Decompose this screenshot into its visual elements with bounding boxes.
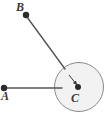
diagram-canvas — [0, 0, 106, 119]
geometry-diagram: A B C — [0, 0, 106, 119]
point-a-label: A — [1, 90, 9, 102]
segment-b-line — [27, 17, 65, 69]
point-c-label: C — [71, 92, 79, 104]
point-b-label: B — [16, 1, 24, 13]
point-c-dot — [75, 84, 81, 90]
